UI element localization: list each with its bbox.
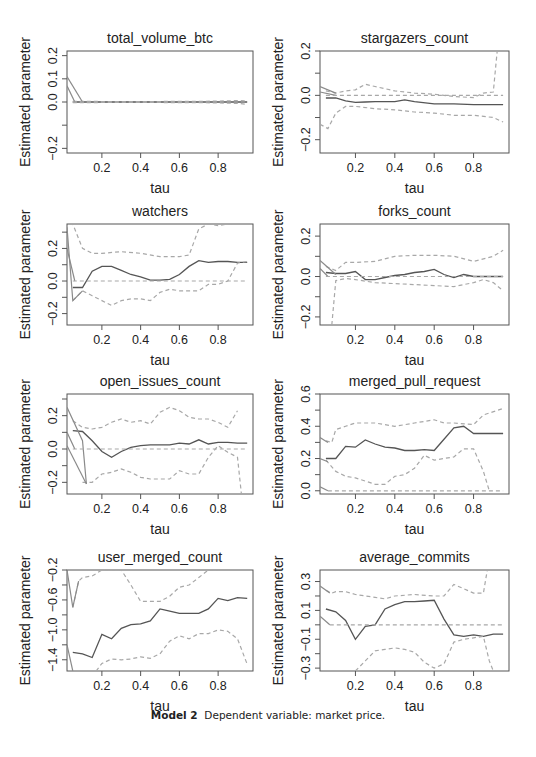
series-lower [320,106,503,128]
panel-forks-count: forks_count0.20.40.60.8tau−0.20.00.2Esti… [270,203,509,368]
series-ols [320,438,328,443]
y-tick-label: −0.6 [46,588,60,613]
x-tick-label: 0.8 [465,161,482,175]
series-upper [73,570,218,607]
x-tick-label: 0.6 [425,502,442,516]
series-upper [73,407,238,429]
series-ols-lo [67,645,73,671]
x-tick-label: 0.6 [171,679,188,693]
series-ols [67,227,83,300]
x-tick-label: 0.2 [347,161,364,175]
figure-caption: Model 2 Dependent variable: market price… [0,709,536,721]
series-ols [67,407,86,484]
y-tick-label: 0.0 [46,93,60,110]
y-axis-label: Estimated parameter [270,379,286,509]
panel-title: user_merged_count [98,549,223,565]
series-estimate [73,431,247,458]
series-estimate [326,269,503,279]
y-tick-label: −0.3 [299,656,313,681]
x-tick-label: 0.4 [386,333,403,347]
panel-watchers: watchers0.20.40.60.8tau−0.20.00.2Estimat… [17,203,253,368]
plot-frame [320,394,509,494]
x-tick-label: 0.4 [132,679,149,693]
x-tick-label: 0.4 [132,502,149,516]
y-tick-label: −0.2 [299,127,313,152]
y-tick-label: 0.0 [299,87,313,104]
x-axis-label: tau [150,352,169,368]
y-tick-label: 0.1 [46,70,60,87]
series-lower [73,103,247,105]
y-tick-label: −0.2 [299,305,313,330]
series-estimate [326,98,503,105]
panel-average-commits: average_commits0.20.40.60.8tau−0.3−0.10.… [270,549,509,714]
series-ols-lo [320,487,328,491]
x-tick-label: 0.4 [132,161,149,175]
y-tick-label: 0.0 [46,440,60,457]
panel-merged-pull-request: merged_pull_request0.20.40.60.8tau0.00.2… [270,373,509,537]
plot-frame [67,224,253,325]
x-tick-label: 0.2 [347,333,364,347]
panel-stargazers-count: stargazers_count0.20.40.60.8tau−0.20.00.… [270,30,509,196]
figure: total_volume_btc0.20.40.60.8tau−0.20.00.… [0,0,536,757]
y-tick-label: 0.0 [46,272,60,289]
panel-total-volume-btc: total_volume_btc0.20.40.60.8tau−0.20.00.… [17,30,253,196]
series-ols [320,586,330,593]
x-tick-label: 0.6 [425,161,442,175]
y-tick-label: −0.2 [46,301,60,326]
y-tick-label: 0.4 [299,418,313,435]
x-axis-label: tau [150,521,169,537]
y-axis-label: Estimated parameter [17,37,33,167]
series-estimate [326,600,503,639]
panel-title: open_issues_count [100,373,221,389]
x-tick-label: 0.8 [465,502,482,516]
plot-frame [320,224,509,325]
series-lower [83,446,242,494]
x-tick-label: 0.6 [171,333,188,347]
panel-title: total_volume_btc [107,30,213,46]
x-tick-label: 0.4 [132,333,149,347]
series-lower [326,449,489,491]
y-tick-label: −1.4 [46,647,60,672]
x-tick-label: 0.4 [386,161,403,175]
y-tick-label: −1.0 [46,617,60,642]
y-tick-label: 0.2 [46,47,60,64]
x-axis-label: tau [405,352,424,368]
y-tick-label: −0.1 [299,627,313,652]
x-axis-label: tau [405,521,424,537]
x-tick-label: 0.2 [347,679,364,693]
x-tick-label: 0.8 [465,333,482,347]
x-tick-label: 0.2 [93,161,110,175]
series-upper [326,42,503,98]
series-upper [67,216,247,257]
y-axis-label: Estimated parameter [270,555,286,685]
x-tick-label: 0.8 [465,679,482,693]
series-ols-mid [320,616,330,625]
y-tick-label: 0.1 [299,602,313,619]
series-upper [326,250,503,270]
caption-text: Dependent variable: market price. [204,709,385,721]
x-tick-label: 0.8 [209,502,226,516]
y-axis-label: Estimated parameter [270,37,286,167]
series-ols-mid [67,432,75,449]
panel-title: stargazers_count [361,30,469,46]
y-axis-label: Estimated parameter [17,379,33,509]
plot-frame [67,570,253,671]
plot-frame [320,570,509,671]
series-ols [67,570,79,607]
panel-title: merged_pull_request [349,373,481,389]
y-tick-label: 0.6 [299,385,313,402]
y-tick-label: −0.2 [46,136,60,161]
x-axis-label: tau [405,180,424,196]
caption-label: Model 2 [151,709,198,721]
series-lower [96,630,247,671]
x-tick-label: 0.2 [93,679,110,693]
y-tick-label: 0.3 [299,573,313,590]
x-tick-label: 0.2 [93,502,110,516]
y-tick-label: 0.0 [299,268,313,285]
x-tick-label: 0.6 [425,333,442,347]
x-tick-label: 0.6 [171,161,188,175]
y-tick-label: −0.2 [46,558,60,583]
y-tick-label: 0.2 [299,450,313,467]
x-tick-label: 0.8 [209,161,226,175]
x-tick-label: 0.8 [209,333,226,347]
